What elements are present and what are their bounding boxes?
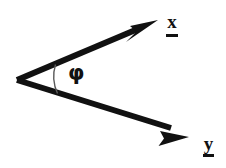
y-axis-label: y (203, 134, 214, 157)
x-vector-underline (166, 34, 178, 37)
y-axis-label-text: y (203, 134, 214, 153)
x-axis-label: x (166, 12, 178, 37)
figure-canvas (0, 0, 226, 168)
phi-angle-label: φ (68, 63, 84, 84)
vector-angle-figure: x y φ (0, 0, 226, 168)
x-axis-label-text: x (166, 12, 178, 31)
y-vector-underline (203, 154, 214, 157)
